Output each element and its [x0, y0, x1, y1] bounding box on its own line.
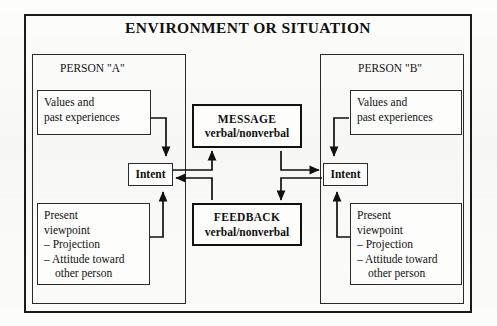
wire-message-to-intent-b [281, 151, 319, 170]
wire-present-a-to-intent-a [150, 192, 163, 237]
wire-values-a-to-intent-a [151, 118, 166, 156]
connector-layer [0, 0, 497, 326]
wire-intent-b-to-feedback [281, 178, 322, 200]
wire-feedback-to-intent-a [176, 178, 212, 200]
wire-intent-a-to-message [173, 151, 212, 170]
wire-values-b-to-intent-b [334, 118, 349, 156]
diagram-canvas: ENVIRONMENT OR SITUATION PERSON "A" PERS… [0, 0, 497, 326]
wire-present-b-to-intent-b [337, 192, 350, 237]
